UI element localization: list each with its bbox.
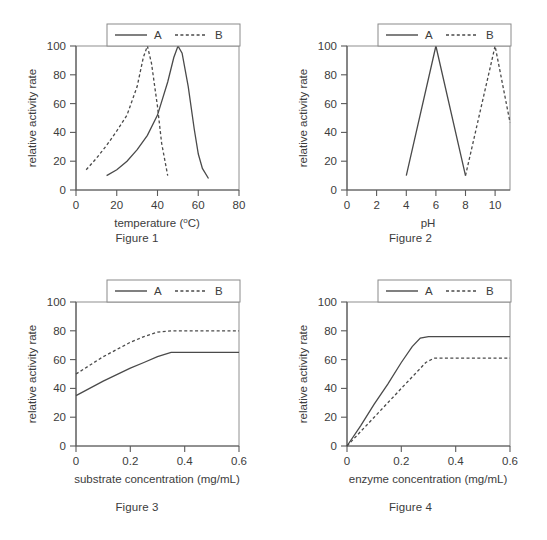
figure-panel-1: 0 20 40 60 80 100 0 20 40 60 80 xyxy=(0,0,274,270)
y-tick-label: 100 xyxy=(47,40,66,52)
y-axis-tick-labels: 0 20 40 60 80 100 xyxy=(47,296,66,452)
y-tick-label: 80 xyxy=(53,325,66,337)
x-axis-title: pH xyxy=(421,217,436,229)
legend-label-a: A xyxy=(425,285,433,297)
y-tick-label: 100 xyxy=(47,296,66,308)
figure-grid: 0 20 40 60 80 100 0 20 40 60 80 xyxy=(0,0,547,540)
x-tick-label: 0 xyxy=(73,455,79,467)
x-axis-tick-labels: 0 0.2 0.4 0.6 xyxy=(73,455,247,467)
x-axis-title: substrate concentration (mg/mL) xyxy=(74,473,240,485)
y-tick-label: 0 xyxy=(331,184,337,196)
x-tick-label: 0 xyxy=(73,199,79,211)
figure-caption: Figure 3 xyxy=(0,501,274,513)
x-axis-title: enzyme concentration (mg/mL) xyxy=(349,473,508,485)
y-tick-label: 20 xyxy=(53,155,66,167)
x-tick-label: 60 xyxy=(192,199,205,211)
series-b-line xyxy=(466,46,511,176)
series-b-line xyxy=(86,46,168,176)
x-axis-tick-labels: 0 20 40 60 80 xyxy=(73,199,246,211)
chart-legend: A B xyxy=(378,24,511,46)
x-tick-label: 20 xyxy=(110,199,123,211)
y-axis-title: relative activity rate xyxy=(297,69,309,167)
x-tick-label: 4 xyxy=(403,199,410,211)
y-tick-label: 0 xyxy=(60,184,66,196)
x-axis-ticks xyxy=(347,446,510,452)
y-axis-tick-labels: 0 20 40 60 80 100 xyxy=(318,40,337,196)
figure-panel-3: 0 20 40 60 80 100 0 0.2 0.4 0.6 substrat… xyxy=(0,270,274,540)
figure-3-chart: 0 20 40 60 80 100 0 0.2 0.4 0.6 substrat… xyxy=(0,270,274,502)
x-tick-label: 6 xyxy=(433,199,439,211)
y-tick-label: 20 xyxy=(324,411,337,423)
plot-frame xyxy=(347,302,510,446)
chart-legend: A B xyxy=(107,24,240,46)
y-axis-title: relative activity rate xyxy=(26,325,38,423)
x-tick-label: 0.6 xyxy=(502,455,518,467)
chart-legend: A B xyxy=(107,280,240,302)
y-tick-label: 80 xyxy=(324,325,337,337)
figure-2-chart: 0 20 40 60 80 100 0 2 4 6 8 1 xyxy=(274,0,547,232)
y-axis-ticks xyxy=(341,302,347,446)
y-tick-label: 60 xyxy=(53,98,66,110)
y-tick-label: 40 xyxy=(53,382,66,394)
figure-panel-4: 0 20 40 60 80 100 0 0.2 0.4 0.6 enzyme c… xyxy=(274,270,547,540)
legend-label-b: B xyxy=(215,285,223,297)
y-tick-label: 40 xyxy=(324,126,337,138)
y-tick-label: 20 xyxy=(53,411,66,423)
figure-1-chart: 0 20 40 60 80 100 0 20 40 60 80 xyxy=(0,0,274,232)
y-tick-label: 0 xyxy=(331,440,337,452)
series-a-line xyxy=(347,337,510,446)
y-tick-label: 100 xyxy=(318,40,337,52)
chart-legend: A B xyxy=(378,280,511,302)
figure-panel-2: 0 20 40 60 80 100 0 2 4 6 8 1 xyxy=(274,0,547,270)
y-tick-label: 60 xyxy=(53,354,66,366)
y-axis-ticks xyxy=(70,46,76,190)
x-axis-tick-labels: 0 2 4 6 8 10 xyxy=(344,199,502,211)
y-axis-ticks xyxy=(341,46,347,190)
legend-label-b: B xyxy=(486,29,494,41)
y-tick-label: 80 xyxy=(324,69,337,81)
y-axis-tick-labels: 0 20 40 60 80 100 xyxy=(318,296,337,452)
y-axis-ticks xyxy=(70,302,76,446)
y-tick-label: 100 xyxy=(318,296,337,308)
y-tick-label: 20 xyxy=(324,155,337,167)
series-b-line xyxy=(347,358,510,446)
x-tick-label: 0 xyxy=(344,455,350,467)
x-axis-ticks xyxy=(76,190,239,196)
x-tick-label: 2 xyxy=(373,199,379,211)
x-tick-label: 80 xyxy=(233,199,246,211)
legend-label-a: A xyxy=(154,29,162,41)
plot-frame xyxy=(76,302,239,446)
x-tick-label: 0 xyxy=(344,199,350,211)
y-tick-label: 80 xyxy=(53,69,66,81)
legend-label-b: B xyxy=(215,29,223,41)
figure-4-chart: 0 20 40 60 80 100 0 0.2 0.4 0.6 enzyme c… xyxy=(274,270,547,502)
series-a-line xyxy=(406,46,465,176)
legend-label-a: A xyxy=(154,285,162,297)
x-tick-label: 10 xyxy=(489,199,502,211)
x-tick-label: 0.4 xyxy=(177,455,194,467)
x-tick-label: 40 xyxy=(151,199,164,211)
y-axis-title: relative activity rate xyxy=(297,325,309,423)
legend-label-a: A xyxy=(425,29,433,41)
y-tick-label: 60 xyxy=(324,98,337,110)
y-tick-label: 40 xyxy=(53,126,66,138)
x-axis-tick-labels: 0 0.2 0.4 0.6 xyxy=(344,455,518,467)
figure-caption: Figure 2 xyxy=(274,232,547,244)
figure-caption: Figure 1 xyxy=(0,232,274,244)
y-axis-title: relative activity rate xyxy=(26,69,38,167)
x-tick-label: 8 xyxy=(462,199,468,211)
figure-caption: Figure 4 xyxy=(274,501,547,513)
y-axis-tick-labels: 0 20 40 60 80 100 xyxy=(47,40,66,196)
y-tick-label: 0 xyxy=(60,440,66,452)
plot-frame xyxy=(76,46,239,190)
x-tick-label: 0.2 xyxy=(122,455,138,467)
y-tick-label: 40 xyxy=(324,382,337,394)
x-tick-label: 0.4 xyxy=(448,455,465,467)
x-axis-ticks xyxy=(76,446,239,452)
plot-frame xyxy=(347,46,510,190)
x-tick-label: 0.6 xyxy=(231,455,247,467)
legend-label-b: B xyxy=(486,285,494,297)
y-tick-label: 60 xyxy=(324,354,337,366)
x-tick-label: 0.2 xyxy=(393,455,409,467)
x-axis-title: temperature (oC) xyxy=(114,216,200,229)
